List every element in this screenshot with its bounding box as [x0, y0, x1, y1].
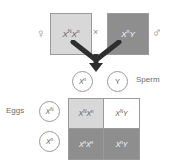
punnett-cell-1-genotype: XNXn: [79, 110, 94, 117]
cross-symbol: ×: [93, 27, 98, 37]
sperm-gamete-2-label: Y: [115, 78, 120, 85]
male-parent-genotype: XnY: [121, 30, 134, 39]
punnett-square-diagram: ♀ XNXn × XnY ♂ Xn Y Sperm Eggs XN Xn XNX…: [0, 0, 177, 165]
punnett-cell-4: XnY: [104, 129, 139, 159]
female-parent-genotype: XNXn: [63, 30, 80, 39]
punnett-cell-2-genotype: XNY: [115, 110, 127, 117]
egg-gamete-2: Xn: [39, 131, 60, 152]
punnett-grid: XNXn XNY XnXn XnY: [68, 98, 140, 160]
punnett-cell-3: XnXn: [69, 129, 104, 159]
punnett-cell-3-genotype: XnXn: [79, 141, 93, 148]
sperm-gamete-1: Xn: [72, 71, 93, 92]
eggs-axis-label: Eggs: [6, 106, 24, 115]
sperm-axis-label: Sperm: [136, 75, 160, 84]
mars-symbol-icon: ♂: [152, 26, 162, 39]
sperm-gamete-2: Y: [107, 71, 128, 92]
egg-gamete-2-label: Xn: [46, 138, 53, 145]
punnett-cell-2: XNY: [104, 99, 139, 129]
punnett-cell-1: XNXn: [69, 99, 104, 129]
sperm-gamete-1-label: Xn: [79, 78, 86, 85]
egg-gamete-1: XN: [39, 101, 60, 122]
egg-gamete-1-label: XN: [46, 108, 54, 115]
venus-symbol-icon: ♀: [36, 27, 46, 40]
cross-arrow-icon: [70, 40, 126, 72]
punnett-cell-4-genotype: XnY: [116, 141, 128, 148]
